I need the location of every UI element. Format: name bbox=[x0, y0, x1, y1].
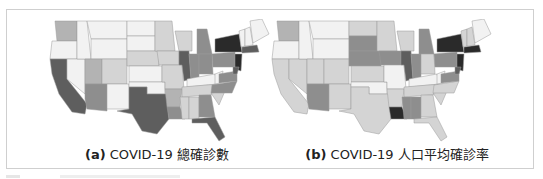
panel-per-capita: (b) COVID-19 人口平均確診率 bbox=[269, 10, 533, 168]
clipped-caption-fragment bbox=[6, 175, 20, 178]
us-map-total-cases bbox=[47, 19, 277, 144]
caption-a-title: COVID-19 總確診數 bbox=[110, 147, 229, 162]
caption-b-title: COVID-19 人口平均確診率 bbox=[331, 147, 489, 162]
us-map-per-capita bbox=[269, 19, 499, 144]
figure-frame: (a) COVID-19 總確診數 bbox=[6, 9, 534, 169]
clipped-caption-fragment bbox=[60, 175, 180, 178]
caption-b: (b) COVID-19 人口平均確診率 bbox=[265, 144, 529, 163]
caption-a: (a) COVID-19 總確診數 bbox=[25, 144, 289, 163]
panel-total-cases: (a) COVID-19 總確診數 bbox=[7, 10, 271, 168]
caption-a-label: (a) bbox=[85, 147, 106, 162]
caption-b-label: (b) bbox=[305, 147, 326, 162]
